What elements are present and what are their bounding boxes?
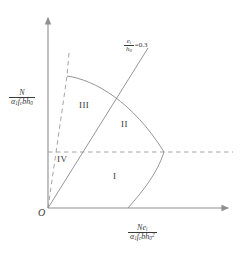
x-denom-h-sup: 2	[152, 232, 155, 238]
region-label-ii: II	[121, 120, 128, 129]
region-label-iii: III	[79, 101, 89, 110]
y-denom-alpha-sub: 1	[15, 100, 18, 106]
eccentricity-ratio-fraction: ei h0	[124, 38, 134, 53]
y-denom-h-sub: 0	[30, 100, 33, 106]
x-denom-f-sub: c	[139, 235, 141, 241]
tension-failure-lower-curve	[128, 152, 164, 208]
eccentricity-denominator: h0	[124, 46, 134, 53]
y-axis-label: N α1fcbh0	[9, 89, 35, 106]
origin-label: O	[38, 208, 45, 218]
region-label-i: I	[113, 172, 116, 181]
region-label-iv: IV	[57, 155, 67, 164]
y-axis-denominator: α1fcbh0	[9, 98, 35, 106]
annot-h: h	[126, 45, 130, 53]
annot-h-sub: 0	[130, 48, 132, 53]
annot-e-sub: i	[130, 40, 131, 45]
eccentricity-value: =0.3	[134, 42, 148, 49]
x-axis-denominator: α1fcbh02	[128, 233, 157, 241]
balanced-envelope-upper-curve	[67, 76, 164, 152]
y-denom-f-sub: c	[20, 100, 22, 106]
x-denom-alpha-sub: 1	[134, 235, 137, 241]
x-axis-fraction: Nei α1fcbh02	[128, 224, 157, 241]
figure-canvas: O I II III IV N α1fcbh0 Nei α1fcbh02 ei …	[0, 0, 247, 261]
y-axis-fraction: N α1fcbh0	[9, 89, 35, 106]
minimum-eccentricity-line	[48, 53, 69, 208]
eccentricity-ratio-annotation: ei h0 =0.3	[124, 38, 147, 53]
eccentricity-ray-line	[48, 48, 148, 208]
x-axis-label: Nei α1fcbh02	[128, 224, 157, 241]
